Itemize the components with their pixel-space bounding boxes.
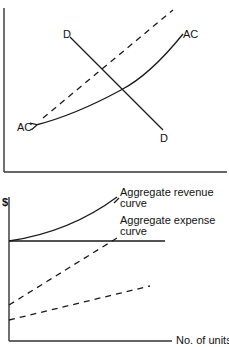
revenue-curve: [9, 197, 117, 241]
lower-dashed-line: [9, 286, 150, 320]
demand-line: [70, 37, 163, 130]
d-label-top: D: [63, 29, 71, 40]
top-dashed-line: [43, 10, 173, 118]
ac-curve: [36, 34, 183, 125]
units-axis-label: No. of units: [176, 335, 229, 346]
ac-label-right: AC: [183, 29, 198, 40]
expense-curve: [9, 238, 117, 305]
expense-label-line2: curve: [120, 226, 147, 237]
dollar-axis-label: $: [2, 197, 8, 208]
diagram-canvas: [0, 0, 229, 347]
d-label-bottom: D: [160, 133, 168, 144]
ac-label-left: AC: [17, 122, 32, 133]
revenue-label-line2: curve: [120, 198, 147, 209]
